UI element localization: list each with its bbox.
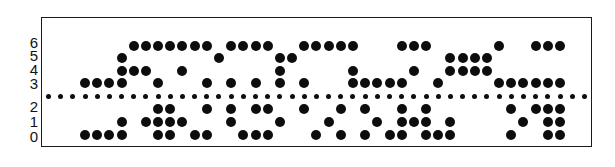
sprocket-hole <box>83 94 88 99</box>
data-hole-row-1 <box>421 117 431 127</box>
data-hole-row-1 <box>555 117 565 127</box>
data-hole-row-0 <box>336 130 346 140</box>
data-hole-row-6 <box>263 41 273 51</box>
row-label-3: 3 <box>26 76 38 91</box>
sprocket-hole <box>302 94 307 99</box>
sprocket-hole <box>424 94 429 99</box>
data-hole-row-4 <box>482 66 492 76</box>
data-hole-row-1 <box>117 117 127 127</box>
sprocket-hole <box>192 94 197 99</box>
sprocket-hole <box>436 94 441 99</box>
data-hole-row-5 <box>117 53 127 63</box>
data-hole-row-0 <box>421 130 431 140</box>
sprocket-hole <box>521 94 526 99</box>
data-hole-row-2 <box>202 104 212 114</box>
data-hole-row-2 <box>251 104 261 114</box>
data-hole-row-6 <box>409 41 419 51</box>
sprocket-hole <box>448 94 453 99</box>
sprocket-hole <box>545 94 550 99</box>
data-hole-row-3 <box>117 78 127 88</box>
data-hole-row-2 <box>263 104 273 114</box>
data-hole-row-6 <box>190 41 200 51</box>
row-label-0: 0 <box>26 129 38 144</box>
data-hole-row-6 <box>129 41 139 51</box>
data-hole-row-1 <box>275 117 285 127</box>
data-hole-row-0 <box>251 130 261 140</box>
sprocket-hole <box>558 94 563 99</box>
data-hole-row-3 <box>348 78 358 88</box>
sprocket-hole <box>253 94 258 99</box>
sprocket-hole <box>277 94 282 99</box>
data-hole-row-3 <box>555 78 565 88</box>
data-hole-row-1 <box>324 117 334 127</box>
data-hole-row-0 <box>117 130 127 140</box>
data-hole-row-5 <box>458 53 468 63</box>
data-hole-row-3 <box>202 78 212 88</box>
sprocket-hole <box>363 94 368 99</box>
sprocket-hole <box>168 94 173 99</box>
data-hole-row-1 <box>141 117 151 127</box>
sprocket-hole <box>131 94 136 99</box>
data-hole-row-0 <box>263 130 273 140</box>
data-hole-row-2 <box>397 104 407 114</box>
data-hole-row-3 <box>543 78 553 88</box>
data-hole-row-0 <box>555 130 565 140</box>
sprocket-hole <box>411 94 416 99</box>
data-hole-row-3 <box>251 78 261 88</box>
sprocket-hole <box>204 94 209 99</box>
data-hole-row-0 <box>190 130 200 140</box>
sprocket-hole <box>472 94 477 99</box>
data-hole-row-2 <box>336 104 346 114</box>
data-hole-row-5 <box>287 53 297 63</box>
sprocket-hole <box>314 94 319 99</box>
data-hole-row-4 <box>117 66 127 76</box>
data-hole-row-6 <box>348 41 358 51</box>
data-hole-row-6 <box>531 41 541 51</box>
sprocket-hole <box>119 94 124 99</box>
row-label-2: 2 <box>26 99 38 114</box>
data-hole-row-4 <box>458 66 468 76</box>
data-hole-row-4 <box>348 66 358 76</box>
row-label-1: 1 <box>26 114 38 129</box>
data-hole-row-6 <box>555 41 565 51</box>
sprocket-hole <box>156 94 161 99</box>
sprocket-hole <box>265 94 270 99</box>
data-hole-row-6 <box>251 41 261 51</box>
data-hole-row-0 <box>202 130 212 140</box>
data-hole-row-6 <box>397 41 407 51</box>
data-hole-row-3 <box>80 78 90 88</box>
data-hole-row-4 <box>275 66 285 76</box>
data-hole-row-0 <box>397 130 407 140</box>
sprocket-hole <box>338 94 343 99</box>
sprocket-hole <box>582 94 587 99</box>
data-hole-row-3 <box>275 78 285 88</box>
data-hole-row-2 <box>531 104 541 114</box>
sprocket-hole <box>180 94 185 99</box>
data-hole-row-0 <box>543 130 553 140</box>
sprocket-hole <box>46 94 51 99</box>
data-hole-row-6 <box>543 41 553 51</box>
data-hole-row-3 <box>397 78 407 88</box>
sprocket-hole <box>70 94 75 99</box>
sprocket-hole <box>387 94 392 99</box>
sprocket-hole <box>460 94 465 99</box>
data-hole-row-6 <box>421 41 431 51</box>
sprocket-hole <box>497 94 502 99</box>
data-hole-row-6 <box>324 41 334 51</box>
sprocket-hole <box>326 94 331 99</box>
data-hole-row-5 <box>214 53 224 63</box>
data-hole-row-5 <box>470 53 480 63</box>
data-hole-row-5 <box>275 53 285 63</box>
sprocket-hole <box>143 94 148 99</box>
sprocket-hole <box>95 94 100 99</box>
sprocket-hole <box>399 94 404 99</box>
data-hole-row-1 <box>409 117 419 127</box>
data-hole-row-6 <box>336 41 346 51</box>
sprocket-hole <box>241 94 246 99</box>
data-hole-row-0 <box>80 130 90 140</box>
sprocket-hole <box>107 94 112 99</box>
sprocket-hole <box>229 94 234 99</box>
data-hole-row-6 <box>202 41 212 51</box>
data-hole-row-4 <box>129 66 139 76</box>
data-hole-row-3 <box>385 78 395 88</box>
